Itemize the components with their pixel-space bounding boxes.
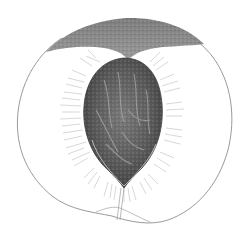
peach-illustration (0, 0, 244, 239)
peach-half-drawing (0, 0, 244, 239)
stem-line (117, 188, 124, 220)
